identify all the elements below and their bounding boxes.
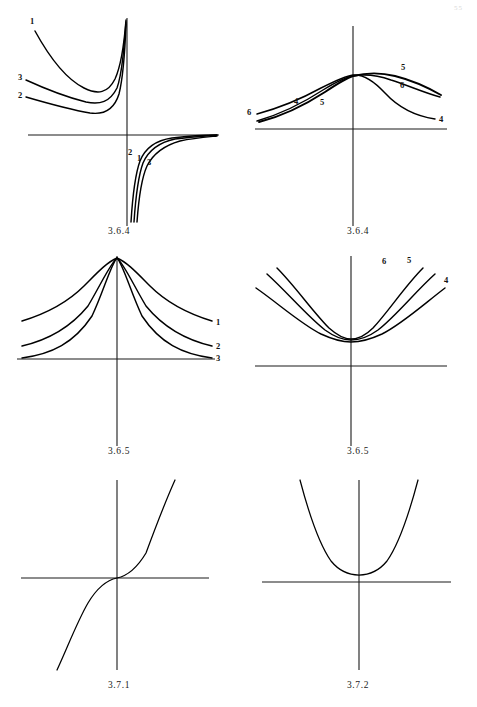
figure-panel-6: 3.7.2 — [239, 468, 477, 707]
figure-panel-1: 1 3 2 2 1 3 3.6.4 — [0, 4, 238, 244]
plot-3: 1 2 3 — [0, 246, 238, 446]
curve-label-lower-1: 1 — [137, 153, 141, 163]
curve-label-1: 1 — [30, 16, 34, 26]
figure-panel-5: 3.7.1 — [0, 468, 238, 707]
curve-label-5-right: 5 — [401, 62, 405, 72]
curve-label-5: 5 — [407, 255, 411, 265]
panel-1-caption: 3.6.4 — [0, 226, 238, 236]
curve-cubic — [57, 480, 175, 670]
curve-4 — [257, 75, 435, 119]
curve-upper-1 — [35, 20, 126, 92]
panel-6-caption: 3.7.2 — [239, 680, 477, 690]
curve-label-4: 4 — [444, 275, 449, 285]
curve-label-6: 6 — [382, 256, 386, 266]
plot-4: 6 5 4 — [239, 246, 477, 446]
curve-label-1: 1 — [216, 317, 220, 327]
panel-4-caption: 3.6.5 — [239, 446, 477, 456]
curve-label-4-right: 4 — [439, 114, 444, 124]
panel-5-caption: 3.7.1 — [0, 680, 238, 690]
curve-label-lower-3: 3 — [147, 157, 151, 167]
curve-6 — [277, 268, 423, 339]
panel-2-caption: 3.6.4 — [239, 226, 477, 236]
panel-3-caption: 3.6.5 — [0, 446, 238, 456]
curve-label-5-left: 5 — [320, 97, 324, 107]
figure-panel-3: 1 2 3 3.6.5 — [0, 246, 238, 466]
curve-label-2: 2 — [18, 90, 22, 100]
curve-label-2: 2 — [216, 341, 220, 351]
plot-2: 6 4 5 5 6 4 — [239, 4, 477, 226]
curve-label-3: 3 — [216, 353, 220, 363]
curve-label-6-right: 6 — [400, 80, 404, 90]
curve-5 — [259, 73, 441, 122]
plot-6 — [239, 468, 477, 680]
curve-lower-1 — [134, 135, 217, 222]
curve-label-lower-2: 2 — [128, 147, 132, 157]
figure-panel-2: 6 4 5 5 6 4 3.6.4 — [239, 4, 477, 244]
curve-lower-3 — [137, 136, 217, 222]
curve-lower-2 — [131, 135, 217, 222]
figure-panel-4: 6 5 4 3.6.5 — [239, 246, 477, 466]
plot-1: 1 3 2 2 1 3 — [0, 4, 238, 226]
figure-page: 55 1 3 2 2 1 3 3.6.4 — [0, 0, 477, 707]
curve-label-3: 3 — [18, 72, 22, 82]
plot-5 — [0, 468, 238, 680]
curve-label-6-left: 6 — [247, 107, 251, 117]
curve-upper-3 — [26, 22, 126, 103]
